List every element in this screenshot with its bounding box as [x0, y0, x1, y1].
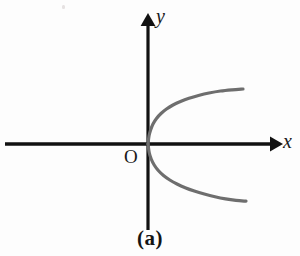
x-axis [5, 137, 283, 152]
parabola-lower-branch [148, 144, 246, 201]
origin-label: O [124, 147, 138, 166]
x-axis-label: x [283, 131, 292, 151]
parabola-plot [0, 0, 300, 256]
y-axis-arrowhead-icon [141, 13, 156, 26]
figure-container: y x O (a) [0, 0, 300, 256]
figure-caption: (a) [0, 228, 300, 249]
y-axis-label: y [156, 6, 165, 26]
parabola-upper-branch [148, 89, 243, 144]
x-axis-arrowhead-icon [270, 137, 283, 152]
